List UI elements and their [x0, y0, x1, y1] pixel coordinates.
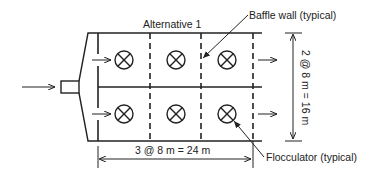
circle-x-icon	[218, 105, 236, 123]
flocculator-leader	[234, 121, 264, 157]
inlet-pipe	[61, 81, 79, 93]
diagram-title: Alternative 1	[143, 18, 201, 30]
inlet-manifold-top	[79, 33, 98, 81]
circle-x-icon	[167, 51, 185, 69]
circle-x-icon	[167, 105, 185, 123]
circle-x-icon	[218, 51, 236, 69]
inlet-manifold-bottom	[79, 93, 98, 141]
circle-x-icon	[115, 51, 133, 69]
inlet	[22, 33, 98, 141]
baffle-wall-callout: Baffle wall (typical)	[249, 9, 336, 21]
callout-leaders	[203, 15, 264, 157]
circle-x-icon	[115, 105, 133, 123]
horizontal-dimension-label: 3 @ 8 m = 24 m	[135, 144, 210, 156]
vertical-dimension-label: 2 @ 8 m = 16 m	[300, 50, 312, 125]
flocculator-callout: Flocculator (typical)	[266, 151, 357, 163]
